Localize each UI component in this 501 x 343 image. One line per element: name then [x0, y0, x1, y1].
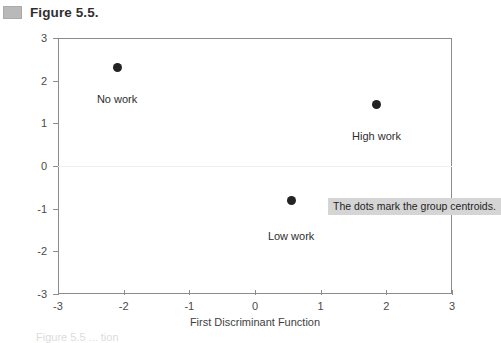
annotation-callout: The dots mark the group centroids. [328, 198, 501, 215]
y-tick-label: -2 [37, 245, 47, 257]
y-tick-mark [53, 38, 58, 39]
x-axis-title: First Discriminant Function [58, 316, 452, 328]
page-bleed-text: Figure 5.5 ... tion [36, 331, 119, 343]
y-tick-label: 3 [41, 32, 47, 44]
zero-reference-line [58, 166, 452, 167]
data-point [113, 63, 122, 72]
y-tick-mark [53, 123, 58, 124]
x-tick-mark [386, 290, 387, 295]
data-point [287, 196, 296, 205]
y-tick-label: 1 [41, 117, 47, 129]
y-tick-label: -1 [37, 203, 47, 215]
y-tick-label: 0 [41, 160, 47, 172]
x-tick-label: -1 [184, 300, 194, 312]
page-title: Figure 5.5. [30, 5, 99, 20]
x-tick-mark [124, 290, 125, 295]
y-tick-mark [53, 209, 58, 210]
x-tick-label: 3 [449, 300, 455, 312]
y-tick-mark [53, 294, 58, 295]
y-tick-label: 2 [41, 75, 47, 87]
x-tick-label: -3 [53, 300, 63, 312]
figure-header: Figure 5.5. [0, 0, 493, 24]
x-tick-mark [321, 290, 322, 295]
data-point [372, 100, 381, 109]
data-point-label: High work [352, 130, 401, 142]
y-tick-mark [53, 81, 58, 82]
x-tick-mark [452, 290, 453, 295]
x-tick-label: 1 [318, 300, 324, 312]
x-tick-label: 0 [252, 300, 258, 312]
scatter-plot: No workHigh workLow work -3-2-10123-3-2-… [58, 38, 452, 294]
data-point-label: Low work [268, 230, 314, 242]
x-tick-mark [189, 290, 190, 295]
data-point-label: No work [97, 93, 137, 105]
x-tick-mark [255, 290, 256, 295]
x-tick-label: 2 [383, 300, 389, 312]
y-tick-mark [53, 166, 58, 167]
y-tick-mark [53, 251, 58, 252]
x-tick-label: -2 [119, 300, 129, 312]
figure-marker-swatch-icon [3, 6, 22, 19]
x-tick-mark [58, 290, 59, 295]
y-tick-label: -3 [37, 288, 47, 300]
